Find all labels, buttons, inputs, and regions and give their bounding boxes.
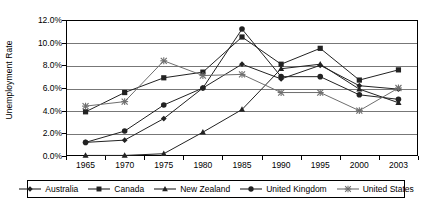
legend-item-australia[interactable]: Australia: [18, 184, 78, 194]
legend-marker-cross-icon: [336, 184, 360, 194]
x-axis-tick-mark: [379, 156, 380, 160]
legend-label: New Zealand: [179, 184, 230, 194]
data-point-marker: [317, 74, 323, 80]
data-point-marker: [317, 61, 323, 67]
data-point-marker: [278, 74, 284, 80]
x-axis-tick-label: 2003: [389, 160, 408, 170]
legend-marker-square-icon: [87, 184, 111, 194]
y-axis-tick-label: 0.0%: [4, 151, 62, 161]
data-point-marker: [356, 86, 362, 92]
x-axis-tick-mark: [262, 156, 263, 160]
legend-label: United States: [362, 184, 414, 194]
data-point-marker: [200, 85, 206, 91]
y-axis-tick-label: 12.0%: [4, 15, 62, 25]
data-point-marker: [161, 151, 167, 157]
data-point-marker: [357, 77, 362, 82]
x-axis-tick-mark: [66, 156, 67, 160]
series-line: [86, 61, 399, 111]
x-axis-tick-mark: [418, 156, 419, 160]
data-point-marker: [396, 97, 402, 103]
x-axis-tick-mark: [183, 156, 184, 160]
data-point-marker: [121, 98, 128, 105]
x-axis-tick-label: 1975: [154, 160, 173, 170]
data-point-marker: [239, 71, 246, 78]
series-layer: [66, 20, 418, 156]
legend-item-new-zealand[interactable]: New Zealand: [153, 184, 230, 194]
series-line: [86, 29, 399, 142]
x-axis-tick-label: 2000: [350, 160, 369, 170]
data-point-marker: [122, 90, 127, 95]
legend-marker-diamond-icon: [18, 184, 42, 194]
y-axis-tick-label: 6.0%: [4, 83, 62, 93]
y-axis-tick-label: 8.0%: [4, 60, 62, 70]
data-point-marker: [83, 109, 88, 114]
x-axis-tick-label: 1995: [311, 160, 330, 170]
data-point-marker: [122, 128, 128, 134]
data-point-marker: [122, 137, 128, 143]
data-point-marker: [239, 26, 245, 32]
unemployment-rate-chart: Unemployment Rate 0.0%2.0%4.0%6.0%8.0%10…: [0, 0, 430, 206]
x-axis-tick-label: 1990: [272, 160, 291, 170]
x-axis-tick-mark: [301, 156, 302, 160]
chart-legend: AustraliaCanadaNew ZealandUnited Kingdom…: [27, 180, 405, 198]
x-axis-tick-label: 1965: [76, 160, 95, 170]
legend-item-united-kingdom[interactable]: United Kingdom: [239, 184, 326, 194]
data-point-marker: [200, 129, 206, 135]
data-point-marker: [395, 85, 402, 92]
data-point-marker: [161, 102, 167, 108]
y-axis-tick-label: 10.0%: [4, 38, 62, 48]
x-axis-tick-label: 1970: [115, 160, 134, 170]
legend-label: Australia: [44, 184, 78, 194]
x-axis-tick-mark: [144, 156, 145, 160]
legend-label: Canada: [113, 184, 144, 194]
data-point-marker: [357, 92, 363, 98]
legend-item-canada[interactable]: Canada: [87, 184, 144, 194]
data-point-marker: [161, 75, 166, 80]
x-axis-tick-label: 1980: [193, 160, 212, 170]
data-point-marker: [199, 72, 206, 79]
data-point-marker: [83, 140, 89, 146]
y-axis-tick-label: 2.0%: [4, 128, 62, 138]
data-point-marker: [160, 57, 167, 64]
x-axis-tick-mark: [340, 156, 341, 160]
legend-item-united-states[interactable]: United States: [336, 184, 414, 194]
data-point-marker: [396, 67, 401, 72]
data-point-marker: [239, 34, 244, 39]
data-point-marker: [239, 61, 245, 67]
x-axis-tick-mark: [222, 156, 223, 160]
data-point-marker: [278, 89, 285, 96]
data-point-marker: [317, 89, 324, 96]
legend-label: United Kingdom: [265, 184, 326, 194]
x-axis-tick-mark: [105, 156, 106, 160]
data-point-marker: [82, 103, 89, 110]
y-axis-tick-label: 4.0%: [4, 106, 62, 116]
legend-marker-circle-icon: [239, 184, 263, 194]
data-point-marker: [318, 46, 323, 51]
data-point-marker: [356, 107, 363, 114]
legend-marker-triangle-icon: [153, 184, 177, 194]
x-axis-tick-label: 1985: [233, 160, 252, 170]
